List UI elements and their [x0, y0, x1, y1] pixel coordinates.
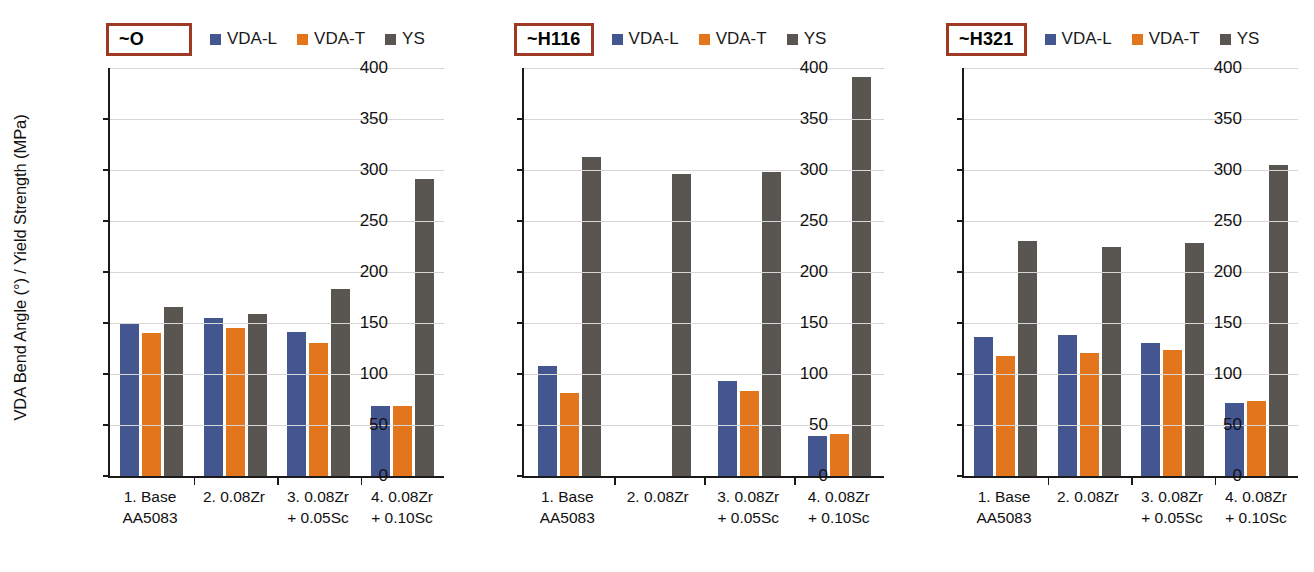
y-tick-label: 100 — [784, 364, 828, 384]
x-axis-labels: 1. Base AA50832. 0.08Zr3. 0.08Zr + 0.05S… — [962, 486, 1298, 528]
y-tick-mark — [957, 220, 964, 222]
y-tick-label: 250 — [1198, 211, 1242, 231]
legend-swatch-square-icon — [699, 34, 710, 45]
y-tick-label: 350 — [344, 109, 388, 129]
legend-item-vda-t: VDA-T — [699, 29, 767, 49]
figure-root: VDA Bend Angle (°) / Yield Strength (MPa… — [0, 0, 1314, 572]
legend-item-vda-l: VDA-L — [210, 29, 277, 49]
legend-swatch-square-icon — [385, 34, 396, 45]
legend: VDA-L VDA-T YS — [210, 29, 425, 49]
gridline — [110, 272, 444, 273]
gridline — [964, 425, 1298, 426]
x-tick-separator — [1131, 476, 1133, 485]
y-tick-mark — [103, 220, 110, 222]
legend-swatch-square-icon — [612, 34, 623, 45]
panel-badge: ~H116 — [514, 23, 594, 56]
bar-vda-t — [1080, 353, 1099, 476]
bar-vda-l — [287, 332, 306, 476]
bar-vda-l — [718, 381, 737, 476]
legend-swatch-square-icon — [297, 34, 308, 45]
y-tick-label: 200 — [1198, 262, 1242, 282]
y-tick-label: 400 — [784, 58, 828, 78]
y-tick-mark — [957, 322, 964, 324]
x-axis-label: 2. 0.08Zr — [1046, 486, 1130, 528]
plot-area: 400350300250200150100500 1. Base AA50832… — [60, 68, 446, 478]
y-tick-label: 400 — [1198, 58, 1242, 78]
y-tick-label: 100 — [344, 364, 388, 384]
gridline — [964, 170, 1298, 171]
y-tick-label: 50 — [344, 415, 388, 435]
gridline — [524, 374, 884, 375]
y-axis-title: VDA Bend Angle (°) / Yield Strength (MPa… — [11, 43, 30, 493]
bar-ys — [762, 172, 781, 476]
y-tick-label: 350 — [1198, 109, 1242, 129]
y-tick-label: 300 — [344, 160, 388, 180]
y-tick-label: 0 — [344, 466, 388, 486]
x-axis-label: 3. 0.08Zr + 0.05Sc — [703, 486, 794, 528]
y-tick-mark — [517, 322, 524, 324]
x-axis-labels: 1. Base AA50832. 0.08Zr3. 0.08Zr + 0.05S… — [108, 486, 444, 528]
bar-vda-t — [1247, 401, 1266, 476]
y-tick-label: 200 — [784, 262, 828, 282]
legend-item-vda-t: VDA-T — [1132, 29, 1200, 49]
y-tick-mark — [517, 475, 524, 477]
legend-item-vda-l: VDA-L — [1045, 29, 1112, 49]
y-tick-mark — [957, 169, 964, 171]
x-axis-label: 2. 0.08Zr — [613, 486, 704, 528]
gridline — [964, 323, 1298, 324]
x-tick-separator — [614, 476, 616, 485]
y-tick-mark — [517, 118, 524, 120]
y-tick-mark — [957, 118, 964, 120]
x-tick-separator — [1215, 476, 1217, 485]
legend-label: YS — [402, 29, 425, 49]
axis-area: 400350300250200150100500 — [962, 68, 1298, 478]
bar-ys — [852, 77, 871, 476]
x-axis-label: 3. 0.08Zr + 0.05Sc — [276, 486, 360, 528]
panel-header: ~H321 VDA-L VDA-T YS — [886, 22, 1314, 56]
x-axis-label: 1. Base AA5083 — [108, 486, 192, 528]
y-tick-mark — [103, 373, 110, 375]
bar-ys — [164, 307, 183, 476]
legend-item-vda-t: VDA-T — [297, 29, 365, 49]
y-tick-mark — [103, 118, 110, 120]
y-tick-label: 200 — [344, 262, 388, 282]
x-axis-label: 4. 0.08Zr + 0.10Sc — [360, 486, 444, 528]
legend-label: YS — [804, 29, 827, 49]
y-tick-label: 400 — [344, 58, 388, 78]
x-tick-separator — [361, 476, 363, 485]
bar-vda-l — [1058, 335, 1077, 476]
bar-vda-t — [393, 406, 412, 476]
plot-area: 400350300250200150100500 1. Base AA50832… — [914, 68, 1300, 478]
bar-vda-t — [740, 391, 759, 476]
axis-area: 400350300250200150100500 — [108, 68, 444, 478]
legend-swatch-square-icon — [787, 34, 798, 45]
bar-ys — [1269, 165, 1288, 476]
y-tick-label: 0 — [1198, 466, 1242, 486]
bar-ys — [415, 179, 434, 476]
axis-area: 400350300250200150100500 — [522, 68, 884, 478]
x-axis-label: 3. 0.08Zr + 0.05Sc — [1130, 486, 1214, 528]
bar-vda-l — [204, 318, 223, 476]
y-tick-mark — [103, 475, 110, 477]
y-tick-mark — [103, 169, 110, 171]
legend-label: VDA-T — [1149, 29, 1200, 49]
x-axis-label: 1. Base AA5083 — [522, 486, 613, 528]
legend-label: VDA-T — [716, 29, 767, 49]
y-tick-label: 150 — [1198, 313, 1242, 333]
y-tick-mark — [517, 169, 524, 171]
y-tick-mark — [517, 424, 524, 426]
bar-vda-t — [142, 333, 161, 476]
gridline — [964, 272, 1298, 273]
y-tick-mark — [957, 424, 964, 426]
gridline — [964, 374, 1298, 375]
legend-label: VDA-L — [1062, 29, 1112, 49]
bar-vda-t — [309, 343, 328, 476]
bar-ys — [672, 174, 691, 476]
y-tick-label: 150 — [344, 313, 388, 333]
y-tick-mark — [103, 271, 110, 273]
legend-swatch-square-icon — [1220, 34, 1231, 45]
legend-label: YS — [1237, 29, 1260, 49]
legend: VDA-L VDA-T YS — [612, 29, 827, 49]
bar-ys — [582, 157, 601, 476]
panel-header: ~H116 VDA-L VDA-T YS — [444, 22, 896, 56]
